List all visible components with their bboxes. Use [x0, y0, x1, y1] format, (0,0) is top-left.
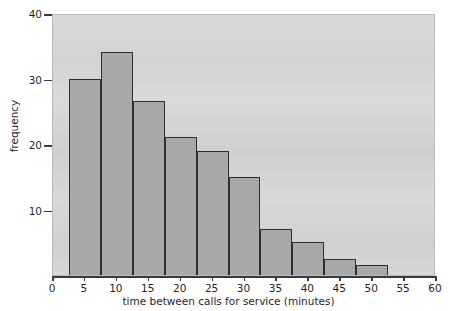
x-axis-tick	[244, 276, 246, 281]
x-axis-tick	[116, 276, 118, 281]
histogram-bar	[356, 265, 388, 275]
y-axis-title: frequency	[8, 86, 20, 166]
x-axis-tick	[371, 276, 373, 281]
x-axis-tick-label: 45	[333, 282, 346, 294]
histogram-bar	[133, 101, 165, 275]
x-axis-tick-label: 60	[428, 282, 441, 294]
y-axis-tick	[44, 211, 52, 213]
x-axis-tick	[180, 276, 182, 281]
x-axis-tick-label: 35	[269, 282, 282, 294]
histogram-bar	[229, 177, 261, 275]
y-axis-tick-label: 10	[22, 205, 42, 217]
x-axis-tick	[84, 276, 86, 281]
x-axis-tick	[403, 276, 405, 281]
y-axis-tick-label: 40	[22, 8, 42, 20]
x-axis-title: time between calls for service (minutes)	[0, 295, 457, 307]
histogram-bar	[324, 259, 356, 275]
x-axis-tick-label: 55	[396, 282, 409, 294]
x-axis-tick	[148, 276, 150, 281]
x-axis-tick-label: 5	[81, 282, 88, 294]
x-axis-tick	[275, 276, 277, 281]
x-axis-tick-label: 50	[364, 282, 377, 294]
x-axis-tick	[52, 276, 54, 281]
x-axis-tick-label: 30	[237, 282, 250, 294]
y-axis-tick	[44, 145, 52, 147]
histogram-bar	[197, 151, 229, 275]
plot-area	[52, 14, 435, 276]
x-axis-tick-label: 25	[205, 282, 218, 294]
histogram-bar	[101, 52, 133, 275]
x-axis-tick	[435, 276, 437, 281]
y-axis-tick-label: 30	[22, 74, 42, 86]
x-axis-tick-label: 10	[109, 282, 122, 294]
x-axis-tick-label: 20	[173, 282, 186, 294]
x-axis-tick-label: 40	[301, 282, 314, 294]
x-axis-tick-label: 15	[141, 282, 154, 294]
histogram-bar	[292, 242, 324, 275]
histogram-bar	[165, 137, 197, 275]
y-axis-tick-label: 20	[22, 139, 42, 151]
x-axis-tick	[212, 276, 214, 281]
x-axis-tick-label: 0	[49, 282, 56, 294]
histogram-bar	[260, 229, 292, 275]
x-axis-tick	[339, 276, 341, 281]
y-axis-tick	[44, 14, 52, 16]
histogram-figure: 051015202530354045505560 10203040 time b…	[0, 0, 457, 311]
y-axis-tick	[44, 80, 52, 82]
x-axis-tick	[307, 276, 309, 281]
histogram-bar	[69, 79, 101, 276]
